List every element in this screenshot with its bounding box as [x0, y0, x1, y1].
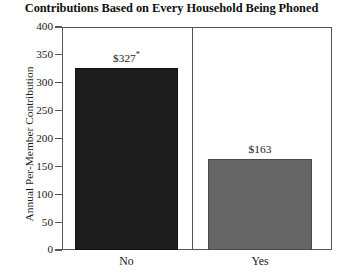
y-tick [55, 194, 62, 195]
bar-no[interactable] [75, 68, 178, 250]
category-label-yes: Yes [208, 254, 312, 269]
chart-title: Contributions Based on Every Household B… [0, 1, 343, 16]
category-label-no: No [75, 254, 178, 269]
y-tick [55, 82, 62, 83]
y-tick-label: 350 [36, 49, 53, 60]
y-tick [55, 26, 62, 27]
y-tick-label: 0 [47, 244, 53, 255]
y-tick [55, 138, 62, 139]
y-tick-label: 300 [36, 77, 53, 88]
y-tick-label: 400 [36, 21, 53, 32]
y-tick [55, 54, 62, 55]
y-tick [55, 110, 62, 111]
bar-value-label: $327* [75, 53, 178, 64]
y-tick-label: 150 [36, 161, 53, 172]
y-tick [55, 222, 62, 223]
y-tick [55, 249, 62, 250]
bar-chart: Contributions Based on Every Household B… [0, 0, 343, 277]
y-tick-label: 250 [36, 105, 53, 116]
panel-divider [192, 27, 193, 250]
y-tick-label: 50 [42, 217, 53, 228]
bar-yes[interactable] [208, 159, 312, 250]
bar-value-label: $163 [208, 144, 312, 155]
y-tick-label: 100 [36, 189, 53, 200]
y-tick [55, 166, 62, 167]
y-axis-title: Annual Per-Member Contribution [23, 30, 35, 258]
y-tick-label: 200 [36, 133, 53, 144]
